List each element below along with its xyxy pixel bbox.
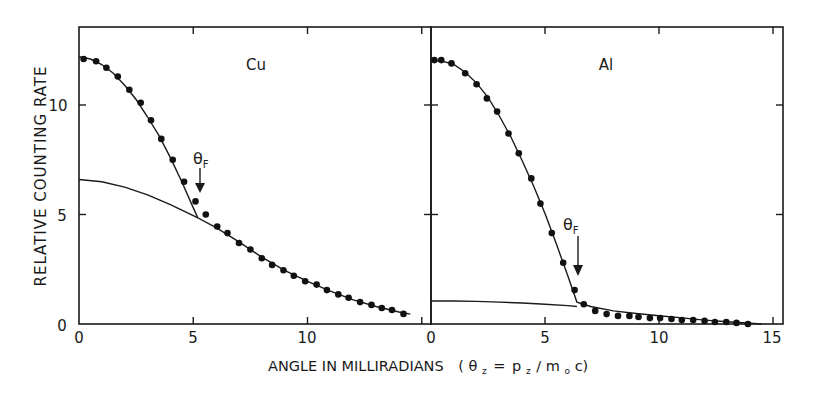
- data-point-cu: [236, 240, 243, 247]
- data-point-al: [733, 320, 740, 327]
- data-point-al: [647, 315, 654, 322]
- data-point-al: [528, 175, 535, 182]
- data-point-al: [473, 81, 480, 88]
- x-axis-label-text: ANGLE IN MILLIRADIANS: [268, 358, 444, 374]
- data-point-al: [537, 200, 544, 207]
- data-point-cu: [126, 86, 133, 93]
- xtick-label-cu-5: 5: [188, 329, 198, 347]
- x-axis-label: ANGLE IN MILLIRADIANS ( θ z = p z / m o …: [268, 358, 588, 377]
- data-point-al: [679, 317, 686, 324]
- data-point-al: [690, 317, 697, 324]
- data-point-al: [462, 70, 469, 77]
- data-point-al: [581, 301, 588, 308]
- xtick-label-cu-0: 0: [74, 329, 84, 347]
- figure: 0 5 10 0 5 10 0 5 10 15 RELATIVE COUNTIN…: [0, 0, 816, 396]
- data-point-al: [560, 259, 567, 266]
- data-point-al: [438, 57, 445, 64]
- fit-curves: [79, 57, 762, 324]
- data-point-cu: [169, 157, 176, 164]
- data-point-cu: [400, 311, 407, 318]
- data-point-al: [448, 60, 455, 67]
- data-point-cu: [368, 302, 375, 309]
- xtick-label-al-10: 10: [649, 329, 668, 347]
- data-point-al: [626, 313, 633, 320]
- data-point-al: [431, 57, 438, 64]
- thetaF-label-cu: θF: [193, 149, 209, 170]
- data-point-al: [635, 314, 642, 321]
- data-point-al: [712, 319, 719, 326]
- data-point-al: [745, 321, 752, 328]
- data-point-cu: [103, 65, 110, 72]
- curve-cu-fit-total-: [79, 57, 410, 314]
- data-point-al: [657, 315, 664, 322]
- data-point-al: [505, 130, 512, 137]
- data-point-cu: [269, 262, 276, 269]
- data-point-cu: [214, 223, 221, 230]
- thetaF-arrow-cu: [195, 168, 205, 193]
- data-point-cu: [158, 136, 165, 143]
- data-point-cu: [324, 287, 331, 294]
- ytick-label-5: 5: [57, 207, 67, 225]
- data-point-al: [668, 316, 675, 323]
- ytick-label-10: 10: [48, 97, 67, 115]
- data-point-al: [494, 108, 501, 115]
- data-point-cu: [259, 255, 266, 262]
- data-point-cu: [357, 299, 364, 306]
- x-axis-formula-pz: z: [526, 366, 531, 376]
- data-point-cu: [313, 281, 320, 288]
- data-point-cu: [389, 307, 396, 314]
- curve-cu-core-contribution: [79, 180, 198, 218]
- thetaF-theta-cu: θ: [193, 149, 203, 168]
- data-point-cu: [224, 230, 231, 237]
- data-point-al: [723, 319, 730, 326]
- x-axis-formula-m: m: [546, 358, 560, 374]
- data-point-cu: [192, 198, 199, 205]
- data-points: [80, 56, 751, 328]
- data-point-al: [615, 313, 622, 320]
- data-point-al: [592, 308, 599, 315]
- x-axis-formula-open: (: [458, 358, 464, 374]
- data-point-cu: [280, 267, 287, 274]
- x-axis-formula-z: z: [482, 366, 487, 376]
- thetaF-sub-al: F: [573, 225, 579, 236]
- thetaF-arrow-al: [573, 236, 583, 276]
- x-axis-formula-c: c): [575, 358, 589, 374]
- panel-label-al: Al: [599, 56, 613, 74]
- curve-al-fit-total-: [431, 60, 762, 324]
- data-point-cu: [291, 273, 298, 280]
- ytick-label-0: 0: [57, 317, 67, 335]
- x-axis-formula-eq: =: [493, 358, 505, 374]
- data-point-cu: [335, 291, 342, 298]
- data-point-cu: [93, 58, 100, 65]
- x-axis-formula-p: p: [512, 358, 521, 374]
- xtick-label-al-15: 15: [762, 329, 781, 347]
- data-point-cu: [302, 278, 309, 285]
- data-point-cu: [203, 211, 210, 218]
- xtick-label-al-0: 0: [426, 329, 436, 347]
- x-axis-formula-o: o: [565, 366, 571, 376]
- data-point-cu: [247, 246, 254, 253]
- xtick-label-al-5: 5: [540, 329, 550, 347]
- x-axis-formula-slash: /: [536, 358, 541, 374]
- data-point-cu: [115, 73, 122, 80]
- data-point-al: [603, 311, 610, 318]
- data-point-cu: [345, 294, 352, 301]
- x-axis-formula-theta: θ: [469, 358, 478, 374]
- data-point-al: [549, 230, 556, 237]
- y-axis-label: RELATIVE COUNTING RATE: [32, 65, 50, 286]
- data-point-cu: [80, 56, 87, 63]
- data-point-al: [484, 95, 491, 102]
- xtick-label-cu-10: 10: [297, 329, 316, 347]
- thetaF-theta-al: θ: [563, 215, 573, 234]
- data-point-cu: [137, 100, 144, 107]
- curve-al-core-contribution: [431, 301, 577, 307]
- data-point-al: [571, 287, 578, 294]
- data-point-cu: [181, 178, 188, 185]
- data-point-cu: [148, 117, 155, 124]
- thetaF-sub-cu: F: [203, 159, 209, 170]
- data-point-al: [516, 150, 523, 157]
- data-point-cu: [379, 305, 386, 312]
- panel-label-cu: Cu: [246, 56, 266, 74]
- thetaF-label-al: θF: [563, 215, 579, 236]
- data-point-al: [701, 318, 708, 325]
